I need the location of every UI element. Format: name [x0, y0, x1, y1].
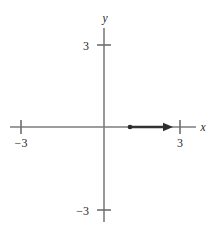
figure-container: x y −3 3 3 −3 [0, 0, 215, 228]
y-axis-label: y [101, 12, 108, 25]
x-axis-label: x [199, 121, 206, 133]
ray-closed-endpoint-dot [128, 125, 133, 130]
ray-arrowhead-icon [163, 123, 173, 131]
y-tick-label-minus-3: −3 [76, 204, 89, 218]
x-tick-label-minus-3: −3 [15, 136, 28, 150]
coordinate-plane-graph: x y −3 3 3 −3 [0, 0, 215, 228]
y-tick-label-3: 3 [83, 39, 89, 53]
x-tick-label-3: 3 [177, 136, 183, 150]
